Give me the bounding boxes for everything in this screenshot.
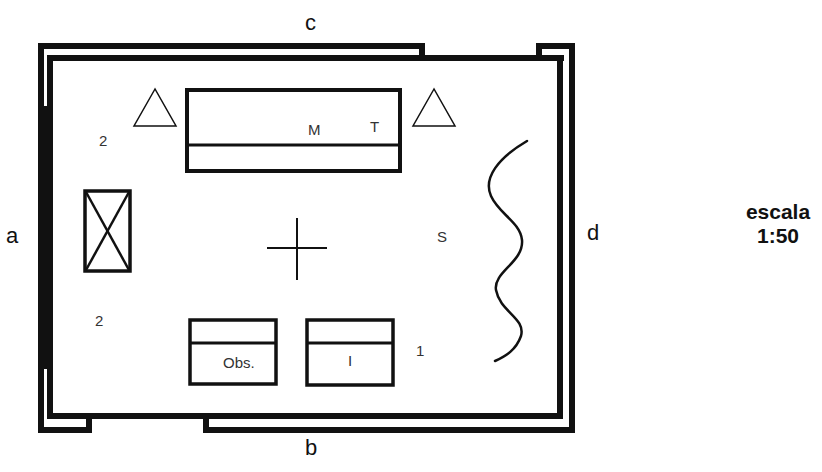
observer-desk [190, 320, 276, 384]
scale-block: escala 1:50 [728, 200, 822, 248]
marker-2-upper: 2 [99, 133, 107, 148]
triangle-right-icon [413, 89, 455, 126]
wall-c-inner [47, 55, 564, 61]
wall-a-solid [38, 106, 53, 369]
curtain-wavy-icon [489, 141, 527, 361]
wall-b-outer-right-end [203, 413, 209, 433]
main-desk [187, 90, 400, 171]
wall-b-outer-left [38, 427, 92, 433]
label-i: I [348, 353, 352, 368]
wall-label-a: a [6, 225, 18, 247]
center-cross-icon [267, 218, 327, 280]
wall-c-outer-end [419, 43, 425, 57]
wall-b-inner [47, 413, 563, 419]
wall-d-top-outer-end [536, 43, 542, 57]
scale-ratio: 1:50 [728, 224, 822, 248]
triangle-left-icon [134, 89, 176, 126]
wall-c-outer [38, 43, 425, 49]
label-m: M [308, 122, 321, 137]
label-t: T [370, 119, 379, 134]
wall-a-outer-bottom [38, 367, 44, 433]
wall-label-b: b [305, 437, 317, 459]
marker-s: S [437, 229, 447, 244]
floor-plan-drawing [0, 0, 822, 472]
wall-a-outer-top [38, 43, 44, 108]
marker-2-lower: 2 [95, 313, 103, 328]
wall-label-d: d [587, 222, 599, 244]
floor-plan: c b a d M T Obs. I 2 2 1 S escala 1:50 [0, 0, 822, 472]
wall-d-inner [557, 55, 563, 419]
wall-d-outer [569, 43, 575, 433]
wall-b-outer-left-end [86, 413, 92, 433]
wall-b-outer-right [203, 427, 575, 433]
scale-label: escala [728, 200, 822, 224]
label-obs: Obs. [223, 355, 255, 370]
wall-label-c: c [305, 12, 316, 34]
crossed-box-icon [85, 191, 130, 271]
marker-1: 1 [416, 343, 424, 358]
